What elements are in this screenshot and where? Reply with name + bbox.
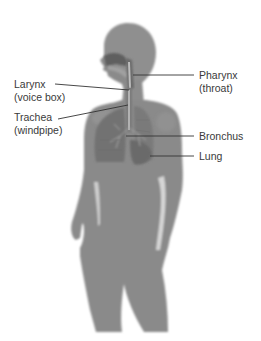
pharynx-common-name: (throat) bbox=[199, 82, 238, 95]
label-bronchus: Bronchus bbox=[199, 130, 243, 143]
pharynx-name: Pharynx bbox=[199, 69, 238, 82]
label-lung: Lung bbox=[199, 150, 222, 163]
label-pharynx: Pharynx (throat) bbox=[199, 69, 238, 95]
body bbox=[71, 100, 183, 332]
lung-name: Lung bbox=[199, 150, 222, 163]
larynx-name: Larynx bbox=[14, 78, 65, 91]
label-trachea: Trachea (windpipe) bbox=[14, 111, 62, 137]
bronchus-name: Bronchus bbox=[199, 130, 243, 143]
larynx-common-name: (voice box) bbox=[14, 91, 65, 104]
larynx-leader bbox=[55, 84, 129, 90]
trachea-name: Trachea bbox=[14, 111, 62, 124]
label-larynx: Larynx (voice box) bbox=[14, 78, 65, 104]
respiratory-diagram bbox=[0, 0, 261, 341]
trachea-common-name: (windpipe) bbox=[14, 124, 62, 137]
